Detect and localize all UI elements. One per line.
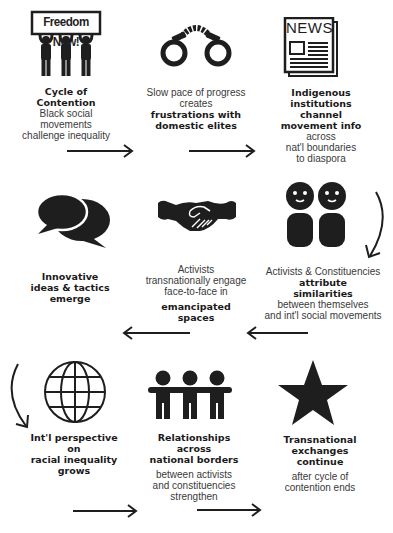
- step-description: between activists: [132, 469, 256, 480]
- step-description: contention ends: [258, 482, 382, 493]
- step-description: Black social: [10, 108, 122, 119]
- step-title: emerge: [10, 293, 130, 304]
- step-title: Cycle of: [10, 86, 122, 97]
- step-pretext: transnationally engage: [134, 275, 258, 286]
- step-title: continue: [258, 456, 382, 467]
- step-pretext: face-to-face in: [134, 286, 258, 297]
- newspaper-headline: NEWS: [286, 19, 330, 37]
- step-title: spaces: [134, 312, 258, 323]
- step-title: channel: [258, 109, 384, 120]
- people-group-icon: [146, 370, 234, 420]
- flow-arrow-right: [196, 502, 264, 518]
- step-attribute-similarities: Activists & Constituencies attribute sim…: [253, 266, 393, 321]
- step-title: Relationships: [132, 432, 256, 443]
- globe-icon: [42, 359, 108, 425]
- protest-sign-text: Freedom Now!: [37, 12, 95, 32]
- step-title: on: [18, 443, 130, 454]
- step-description: to diaspora: [258, 153, 384, 164]
- step-indigenous-institutions: Indigenous institutions channel movement…: [258, 87, 384, 164]
- step-description: strengthen: [132, 491, 256, 502]
- handcuffs-icon: [158, 22, 234, 68]
- step-title: Transnational: [258, 434, 382, 445]
- step-title: attribute: [253, 277, 393, 288]
- flow-arrow-right: [188, 143, 258, 159]
- step-pretext: creates: [134, 98, 258, 109]
- step-intl-perspective: Int'l perspective on racial inequality g…: [18, 432, 130, 476]
- step-cycle-of-contention: Cycle of Contention Black social movemen…: [10, 86, 122, 141]
- speech-bubbles-icon: [34, 192, 112, 250]
- step-title: Indigenous: [258, 87, 384, 98]
- step-title: exchanges: [258, 445, 382, 456]
- step-pretext: Activists: [134, 264, 258, 275]
- step-frustrations: Slow pace of progress creates frustratio…: [134, 87, 258, 131]
- flow-arrow-left: [120, 325, 192, 341]
- step-title: Int'l perspective: [18, 432, 130, 443]
- step-title: emancipated: [134, 301, 258, 312]
- flow-arrow-curved-down: [6, 362, 32, 432]
- step-transnational-exchanges: Transnational exchanges continue after c…: [258, 434, 382, 493]
- flow-arrow-right: [66, 143, 136, 159]
- step-description: and constituencies: [132, 480, 256, 491]
- flow-arrow-curved-down: [362, 190, 392, 262]
- handshake-icon: [156, 197, 238, 233]
- step-title: institutions: [258, 98, 384, 109]
- flow-arrow-right: [72, 503, 140, 519]
- step-description: movements: [10, 119, 122, 130]
- star-icon: [276, 358, 350, 426]
- step-emancipated-spaces: Activists transnationally engage face-to…: [134, 264, 258, 323]
- step-title: ideas & tactics: [10, 282, 130, 293]
- step-innovative-ideas: Innovative ideas & tactics emerge: [10, 271, 130, 304]
- step-description: challenge inequality: [10, 130, 122, 141]
- people-pair-icon: [285, 180, 347, 248]
- flow-arrow-left: [244, 325, 310, 341]
- step-title: domestic elites: [134, 120, 258, 131]
- step-description: between themselves: [253, 299, 393, 310]
- step-title: Innovative: [10, 271, 130, 282]
- step-title: grows: [18, 465, 130, 476]
- step-title: national borders: [132, 454, 256, 465]
- step-title: across: [132, 443, 256, 454]
- step-description: nat'l boundaries: [258, 142, 384, 153]
- step-relationships: Relationships across national borders be…: [132, 432, 256, 502]
- step-pretext: Slow pace of progress: [134, 87, 258, 98]
- step-title: racial inequality: [18, 454, 130, 465]
- step-description: across: [258, 131, 384, 142]
- step-title: frustrations with: [134, 109, 258, 120]
- step-pretext: Activists & Constituencies: [253, 266, 393, 277]
- step-description: and int'l social movements: [253, 310, 393, 321]
- step-title: movement info: [258, 120, 384, 131]
- step-description: after cycle of: [258, 471, 382, 482]
- step-title: similarities: [253, 288, 393, 299]
- step-title: Contention: [10, 97, 122, 108]
